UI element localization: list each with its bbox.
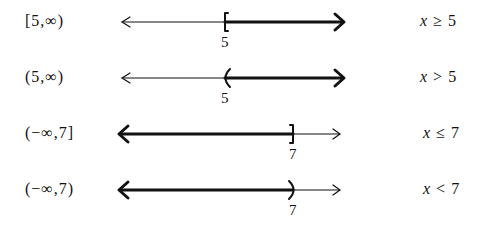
interval-row-3: (−∞,7] 7 x≤7: [0, 112, 480, 168]
interval-notation: (−∞,7): [25, 180, 74, 198]
endpoint-label: 5: [221, 34, 229, 51]
interval-row-4: (−∞,7) 7 x<7: [0, 168, 480, 224]
inequality: x≥5: [420, 12, 462, 30]
interval-notation: (5,∞): [25, 68, 64, 86]
interval-row-1: [5,∞) 5 x≥5: [0, 0, 480, 56]
interval-row-2: (5,∞) 5 x>5: [0, 56, 480, 112]
interval-notation: (−∞,7]: [25, 124, 74, 142]
endpoint-label: 5: [221, 90, 229, 107]
interval-notation: [5,∞): [25, 12, 64, 30]
inequality: x≤7: [423, 124, 465, 142]
endpoint-label: 7: [289, 146, 297, 163]
inequality: x>5: [420, 68, 462, 86]
inequality: x<7: [423, 180, 465, 198]
endpoint-label: 7: [289, 202, 297, 219]
